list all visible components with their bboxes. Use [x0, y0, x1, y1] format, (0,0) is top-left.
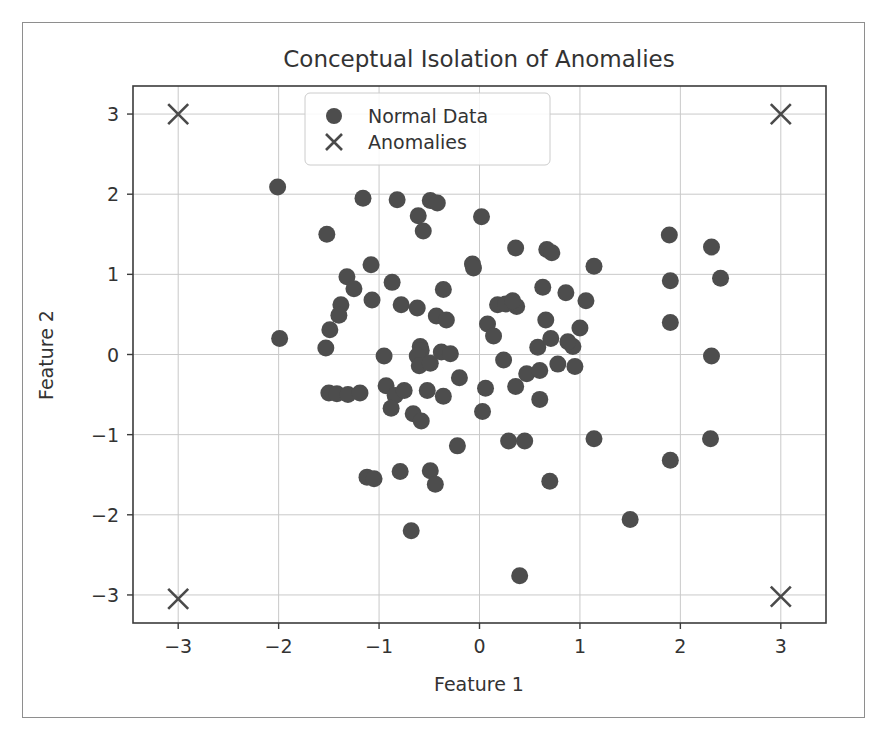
- data-point: [477, 380, 494, 397]
- data-point: [549, 356, 566, 373]
- chart-canvas: −3−2−10123 −3−2−10123 Conceptual Isolati…: [23, 23, 866, 719]
- data-point: [500, 433, 517, 450]
- data-point: [389, 191, 406, 208]
- y-tick-label: 2: [107, 183, 119, 205]
- data-point: [662, 272, 679, 289]
- data-point: [383, 400, 400, 417]
- data-point: [531, 362, 548, 379]
- data-point: [537, 312, 554, 329]
- data-point: [507, 239, 524, 256]
- data-point: [438, 312, 455, 329]
- data-point: [662, 314, 679, 331]
- x-axis-title: Feature 1: [434, 673, 524, 695]
- data-point: [541, 473, 558, 490]
- data-point: [465, 259, 482, 276]
- x-tick-label: 1: [574, 635, 586, 657]
- data-point: [662, 452, 679, 469]
- y-tick-label: −2: [91, 504, 119, 526]
- data-point: [396, 382, 413, 399]
- data-point: [702, 430, 719, 447]
- data-point: [427, 476, 444, 493]
- figure-frame: −3−2−10123 −3−2−10123 Conceptual Isolati…: [22, 22, 865, 718]
- data-point: [366, 470, 383, 487]
- data-point: [345, 280, 362, 297]
- y-tick-label: 1: [107, 263, 119, 285]
- data-point: [415, 223, 432, 240]
- chart-title: Conceptual Isolation of Anomalies: [283, 46, 674, 72]
- x-tick-label: −1: [365, 635, 393, 657]
- y-tick-label: 0: [107, 344, 119, 366]
- data-point: [419, 382, 436, 399]
- data-point: [393, 296, 410, 313]
- legend-marker-normal-data: [326, 108, 342, 124]
- data-point: [531, 391, 548, 408]
- data-point: [451, 369, 468, 386]
- data-point: [661, 227, 678, 244]
- data-point: [318, 226, 335, 243]
- x-tick-label: 0: [473, 635, 485, 657]
- chart-legend[interactable]: Normal Data Anomalies: [305, 93, 550, 165]
- data-point: [354, 190, 371, 207]
- data-point: [449, 437, 466, 454]
- data-point: [403, 522, 420, 539]
- data-point: [543, 244, 560, 261]
- data-point: [585, 430, 602, 447]
- data-point: [571, 320, 588, 337]
- data-point: [473, 208, 490, 225]
- data-point: [485, 328, 502, 345]
- data-point: [321, 321, 338, 338]
- data-point: [330, 307, 347, 324]
- data-point: [566, 358, 583, 375]
- y-tick-label: −3: [91, 584, 119, 606]
- data-point: [577, 292, 594, 309]
- data-point: [363, 256, 380, 273]
- y-axis-ticks: −3−2−10123: [91, 103, 133, 606]
- scatter-chart: −3−2−10123 −3−2−10123 Conceptual Isolati…: [23, 23, 866, 719]
- data-point: [435, 388, 452, 405]
- legend-label-normal-data: Normal Data: [368, 105, 488, 127]
- data-point: [507, 378, 524, 395]
- data-point: [429, 195, 446, 212]
- data-point: [442, 345, 459, 362]
- data-point: [559, 333, 576, 350]
- data-point: [557, 284, 574, 301]
- data-point: [516, 433, 533, 450]
- x-tick-label: −3: [164, 635, 192, 657]
- data-point: [474, 403, 491, 420]
- x-tick-label: 2: [674, 635, 686, 657]
- data-point: [511, 567, 528, 584]
- data-point: [495, 352, 512, 369]
- data-point: [703, 239, 720, 256]
- legend-label-anomalies: Anomalies: [368, 131, 467, 153]
- data-point: [542, 330, 559, 347]
- x-tick-label: 3: [775, 635, 787, 657]
- data-point: [585, 258, 602, 275]
- data-point: [376, 348, 393, 365]
- data-point: [392, 463, 409, 480]
- y-axis-title: Feature 2: [35, 310, 57, 400]
- data-point: [409, 300, 426, 317]
- legend-background: [305, 93, 550, 165]
- x-axis-ticks: −3−2−10123: [164, 623, 787, 657]
- data-point: [413, 413, 430, 430]
- data-point: [351, 384, 368, 401]
- data-point: [703, 348, 720, 365]
- data-point: [364, 291, 381, 308]
- data-point: [622, 511, 639, 528]
- y-tick-label: −1: [91, 424, 119, 446]
- data-point: [317, 340, 334, 357]
- data-point: [435, 281, 452, 298]
- data-point: [384, 274, 401, 291]
- y-tick-label: 3: [107, 103, 119, 125]
- data-point: [712, 270, 729, 287]
- data-point: [504, 292, 521, 309]
- data-point: [269, 178, 286, 195]
- data-point: [410, 207, 427, 224]
- data-point: [271, 330, 288, 347]
- data-point: [534, 279, 551, 296]
- x-tick-label: −2: [265, 635, 293, 657]
